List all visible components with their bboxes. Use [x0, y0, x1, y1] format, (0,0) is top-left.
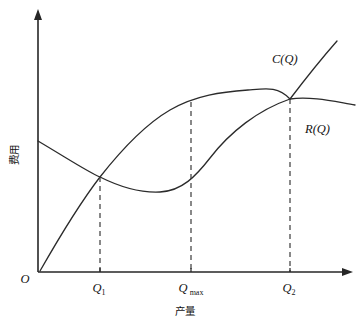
cost-curve-CQ — [40, 41, 337, 271]
vertical-axis-arrow-icon — [34, 9, 42, 20]
tick-label-q2-base: Q — [282, 281, 291, 295]
tick-label-qmax-subscript: max — [190, 288, 204, 297]
revenue-curve-label: R(Q) — [304, 122, 330, 136]
horizontal-axis-arrow-icon — [342, 268, 353, 276]
economics-cost-revenue-figure: O C(Q) R(Q) Q1 Qmax Q2 产量 费用 — [0, 0, 363, 326]
cost-curve-label: C(Q) — [272, 52, 298, 66]
origin-label: O — [20, 272, 29, 286]
tick-label-q1-subscript: 1 — [102, 288, 106, 297]
tick-label-q1-base: Q — [92, 281, 101, 295]
tick-label-qmax: Qmax — [179, 281, 204, 297]
tick-label-q2-subscript: 2 — [292, 288, 296, 297]
horizontal-axis — [38, 268, 353, 276]
chart-canvas: O C(Q) R(Q) Q1 Qmax Q2 产量 费用 — [0, 0, 363, 326]
tick-label-q1: Q1 — [92, 281, 105, 297]
tick-label-qmax-base: Q — [179, 281, 188, 295]
revenue-curve-RQ — [38, 98, 355, 192]
y-axis-title: 费用 — [8, 145, 20, 165]
tick-label-q2: Q2 — [282, 281, 295, 297]
x-axis-title: 产量 — [175, 305, 196, 317]
